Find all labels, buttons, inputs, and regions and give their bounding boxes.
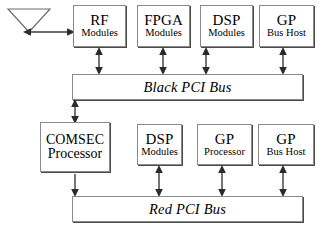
block-title: DSP — [146, 132, 174, 147]
connector-gp-bus-host-black-bus — [277, 47, 289, 75]
block-subtitle: Modules — [145, 28, 182, 39]
block-title: GP — [276, 132, 295, 147]
connector-comsec-red-bus — [69, 172, 81, 197]
block-rf-modules[interactable]: RF Modules — [73, 5, 126, 47]
connector-black-bus-comsec — [69, 99, 81, 124]
connector-gp-processor-red-bus — [216, 165, 228, 197]
block-dsp-modules-top[interactable]: DSP Modules — [200, 5, 253, 47]
block-title: RF — [90, 13, 109, 28]
bus-black-pci[interactable]: Black PCI Bus — [72, 74, 303, 100]
diagram-canvas: RF Modules FPGA Modules DSP Modules GP B… — [0, 0, 324, 228]
block-subtitle: Bus Host — [267, 147, 306, 158]
block-title: DSP — [213, 13, 241, 28]
block-subtitle: Modules — [141, 147, 178, 158]
block-gp-bus-host-top[interactable]: GP Bus Host — [259, 5, 314, 47]
block-subtitle: Modules — [81, 28, 118, 39]
bus-label: Red PCI Bus — [149, 201, 226, 218]
block-dsp-modules-bottom[interactable]: DSP Modules — [137, 124, 182, 165]
block-title: COMSEC — [46, 133, 104, 147]
block-subtitle: Processor — [204, 147, 245, 158]
connector-gp-bus-host-red-bus — [277, 165, 289, 197]
block-subtitle: Bus Host — [267, 28, 306, 39]
block-subtitle: Processor — [48, 147, 102, 161]
block-title: GP — [215, 132, 234, 147]
block-gp-bus-host-bottom[interactable]: GP Bus Host — [258, 124, 314, 165]
block-comsec-processor[interactable]: COMSEC Processor — [40, 122, 110, 172]
connector-antenna-rf — [22, 26, 76, 38]
connector-dsp-red-bus — [153, 165, 165, 197]
block-gp-processor[interactable]: GP Processor — [197, 124, 252, 165]
connector-rf-black-bus — [93, 47, 105, 75]
bus-label: Black PCI Bus — [144, 79, 232, 96]
bus-red-pci[interactable]: Red PCI Bus — [72, 196, 303, 222]
block-title: GP — [277, 13, 296, 28]
connector-dsp-black-bus — [200, 47, 212, 75]
connector-fpga-black-bus — [157, 47, 169, 75]
block-title: FPGA — [144, 13, 183, 28]
block-subtitle: Modules — [208, 28, 245, 39]
block-fpga-modules[interactable]: FPGA Modules — [137, 5, 190, 47]
